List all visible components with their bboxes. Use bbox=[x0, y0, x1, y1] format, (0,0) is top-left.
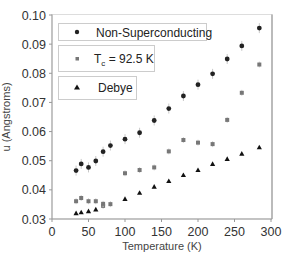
data-point bbox=[137, 130, 142, 135]
data-point bbox=[152, 118, 157, 123]
y-tick-label: 0.09 bbox=[22, 38, 46, 52]
scatter-chart: 0.030.040.050.060.070.080.090.10 0501001… bbox=[0, 0, 285, 263]
data-point bbox=[137, 190, 142, 195]
data-point bbox=[196, 141, 200, 145]
data-point bbox=[123, 171, 127, 175]
data-point bbox=[79, 210, 84, 215]
data-point bbox=[87, 199, 91, 203]
data-point bbox=[86, 209, 91, 214]
y-axis-ticks: 0.030.040.050.060.070.080.090.10 bbox=[22, 9, 52, 227]
data-point bbox=[181, 94, 186, 99]
y-tick-label: 0.07 bbox=[22, 96, 46, 110]
data-point bbox=[108, 143, 113, 148]
data-point bbox=[210, 71, 215, 76]
data-point bbox=[101, 202, 105, 206]
legend-item-debye: Debye bbox=[59, 77, 137, 100]
y-tick-label: 0.10 bbox=[22, 9, 46, 23]
data-point bbox=[79, 162, 84, 167]
y-tick-label: 0.08 bbox=[22, 67, 46, 81]
data-point bbox=[108, 202, 112, 206]
data-point bbox=[239, 151, 244, 156]
data-point bbox=[166, 179, 171, 184]
circle-marker-icon bbox=[75, 30, 79, 34]
legend: Non-Superconducting Tc = 92.5 K Debye bbox=[59, 24, 213, 100]
x-tick-label: 300 bbox=[261, 225, 282, 239]
y-tick-label: 0.04 bbox=[22, 183, 46, 197]
data-point bbox=[225, 156, 230, 161]
data-point bbox=[93, 207, 98, 212]
legend-label: Non-Superconducting bbox=[96, 26, 212, 40]
data-point bbox=[225, 57, 230, 62]
data-point bbox=[210, 161, 215, 166]
x-tick-label: 250 bbox=[224, 225, 245, 239]
data-point bbox=[152, 184, 157, 189]
x-tick-label: 150 bbox=[151, 225, 172, 239]
x-tick-label: 50 bbox=[82, 225, 96, 239]
data-point bbox=[94, 199, 98, 203]
data-point bbox=[152, 165, 156, 169]
data-point bbox=[73, 211, 78, 216]
data-point bbox=[93, 159, 98, 164]
x-tick-label: 100 bbox=[115, 225, 136, 239]
data-point bbox=[86, 165, 91, 170]
data-point bbox=[181, 138, 185, 142]
legend-item-non-superconducting: Non-Superconducting bbox=[59, 24, 213, 41]
data-point bbox=[79, 196, 83, 200]
legend-item-tc: Tc = 92.5 K bbox=[59, 46, 155, 72]
data-point bbox=[167, 149, 171, 153]
y-axis-title: u (Angstroms) bbox=[0, 82, 12, 151]
y-tick-label: 0.03 bbox=[22, 213, 46, 227]
x-tick-label: 0 bbox=[49, 225, 56, 239]
data-point bbox=[166, 106, 171, 111]
data-point bbox=[211, 142, 215, 146]
square-marker-icon bbox=[76, 57, 80, 61]
x-tick-label: 200 bbox=[188, 225, 209, 239]
data-point bbox=[239, 43, 244, 48]
data-point bbox=[195, 167, 200, 172]
data-point bbox=[240, 91, 244, 95]
legend-label: Debye bbox=[98, 81, 133, 95]
y-tick-label: 0.06 bbox=[22, 125, 46, 139]
data-point bbox=[74, 199, 78, 203]
data-point bbox=[196, 82, 201, 87]
data-point bbox=[74, 168, 79, 173]
data-point bbox=[123, 137, 128, 142]
data-point bbox=[257, 26, 262, 31]
x-axis-ticks: 050100150200250300 bbox=[49, 219, 282, 239]
data-point bbox=[138, 168, 142, 172]
data-point bbox=[122, 196, 127, 201]
data-point bbox=[181, 172, 186, 177]
x-axis-title: Temperature (K) bbox=[122, 240, 201, 252]
data-point bbox=[257, 63, 261, 67]
data-point bbox=[225, 118, 229, 122]
data-point bbox=[101, 149, 106, 154]
data-point bbox=[257, 145, 262, 150]
y-tick-label: 0.05 bbox=[22, 154, 46, 168]
